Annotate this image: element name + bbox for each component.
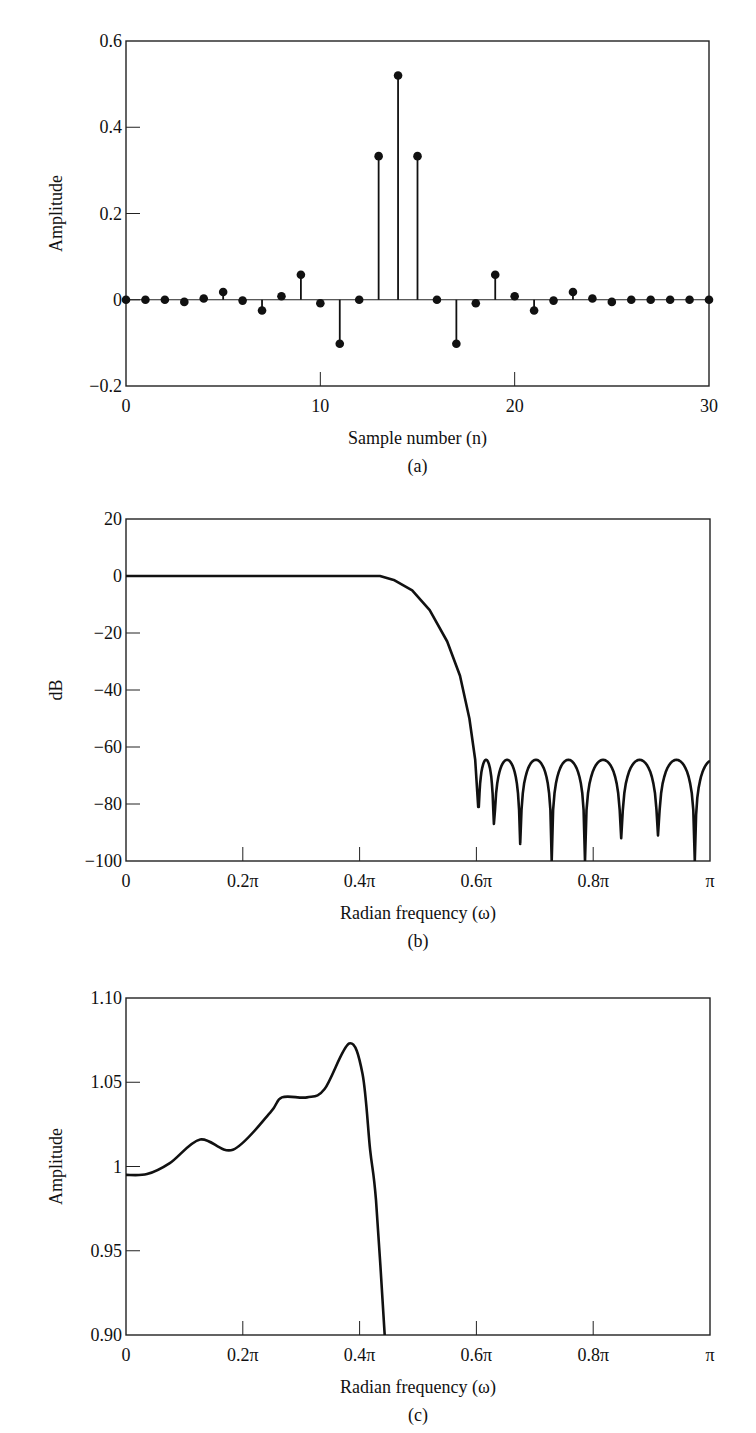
x-tick-label: 20	[506, 396, 524, 416]
stem-marker	[180, 298, 189, 307]
magnitude-response-curve	[126, 576, 710, 861]
stem-marker	[569, 288, 578, 297]
x-axis-label: Radian frequency (ω)	[340, 1377, 496, 1398]
stem-marker	[413, 152, 422, 161]
stem-marker	[141, 295, 150, 304]
y-tick-label: 20	[104, 509, 122, 529]
plot-frame	[126, 998, 710, 1335]
y-tick-label: 1	[113, 1157, 122, 1177]
stem-marker	[238, 296, 247, 305]
stem-marker	[491, 270, 500, 279]
y-tick-label: −100	[85, 851, 122, 871]
figure: −0.200.20.40.60102030Sample number (n)Am…	[0, 0, 756, 1433]
x-tick-label: 0	[122, 871, 131, 891]
x-tick-label: 10	[311, 396, 329, 416]
stem-marker	[685, 295, 694, 304]
y-tick-label: −80	[94, 794, 122, 814]
stem-marker	[549, 296, 558, 305]
x-tick-label: 0.8π	[577, 871, 609, 891]
y-tick-label: 0	[113, 290, 122, 310]
x-tick-label: 0.2π	[227, 1345, 259, 1365]
y-tick-label: 0.90	[91, 1325, 123, 1345]
stem-marker	[374, 152, 383, 161]
x-tick-label: 0.6π	[461, 1345, 493, 1365]
y-axis-label: Amplitude	[46, 1128, 66, 1205]
stem-marker	[355, 295, 364, 304]
x-axis-label: Sample number (n)	[348, 428, 487, 449]
stem-marker	[335, 339, 344, 348]
stem-marker	[161, 295, 170, 304]
panel-c: 0.900.9511.051.1000.2π0.4π0.6π0.8ππRadia…	[46, 988, 715, 1426]
panel-b: −100−80−60−40−2002000.2π0.4π0.6π0.8ππRad…	[46, 509, 715, 952]
stem-marker	[646, 295, 655, 304]
stem-marker	[627, 295, 636, 304]
y-tick-label: 1.10	[91, 988, 123, 1008]
stem-marker	[394, 71, 403, 80]
stem-marker	[608, 298, 617, 307]
stem-marker	[666, 295, 675, 304]
stem-marker	[316, 299, 325, 308]
stem-marker	[297, 270, 306, 279]
stem-marker	[122, 295, 131, 304]
panel-caption: (a)	[408, 456, 428, 477]
panel-caption: (c)	[408, 1405, 428, 1426]
x-tick-label: 30	[700, 396, 718, 416]
y-tick-label: 0.4	[100, 117, 123, 137]
stem-marker	[705, 295, 714, 304]
x-tick-label: 0.6π	[461, 871, 493, 891]
y-tick-label: 0	[113, 566, 122, 586]
stem-marker	[219, 288, 228, 297]
x-tick-label: 0	[122, 396, 131, 416]
panel-a: −0.200.20.40.60102030Sample number (n)Am…	[46, 31, 718, 477]
y-tick-label: −60	[94, 737, 122, 757]
y-tick-label: 0.2	[100, 204, 123, 224]
stem-marker	[510, 292, 519, 301]
y-tick-label: 0.95	[91, 1241, 123, 1261]
passband-amplitude-curve	[126, 1043, 385, 1335]
x-tick-label: π	[705, 1345, 714, 1365]
stem-marker	[199, 294, 208, 303]
panel-caption: (b)	[408, 931, 429, 952]
x-tick-label: 0.4π	[344, 1345, 376, 1365]
x-tick-label: 0.2π	[227, 871, 259, 891]
y-tick-label: 1.05	[91, 1072, 123, 1092]
stem-marker	[530, 306, 539, 315]
stem-marker	[472, 299, 481, 308]
stem-marker	[588, 294, 597, 303]
y-tick-label: −40	[94, 680, 122, 700]
stem-marker	[277, 292, 286, 301]
stem-marker	[258, 306, 267, 315]
y-tick-label: −0.2	[89, 376, 122, 396]
x-tick-label: 0.8π	[577, 1345, 609, 1365]
x-tick-label: 0.4π	[344, 871, 376, 891]
y-tick-label: 0.6	[100, 31, 123, 51]
y-axis-label: Amplitude	[46, 175, 66, 252]
x-tick-label: π	[705, 871, 714, 891]
stem-marker	[452, 339, 461, 348]
y-tick-label: −20	[94, 623, 122, 643]
stem-marker	[433, 295, 442, 304]
x-axis-label: Radian frequency (ω)	[340, 903, 496, 924]
x-tick-label: 0	[122, 1345, 131, 1365]
y-axis-label: dB	[46, 679, 66, 700]
